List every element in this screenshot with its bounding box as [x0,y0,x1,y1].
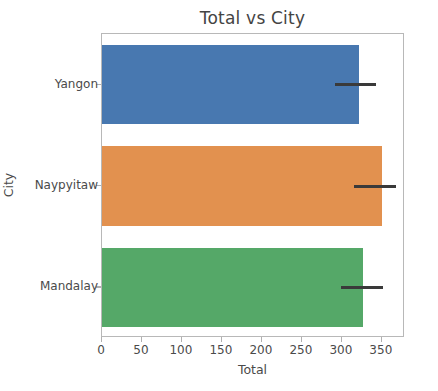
bar-mandalay [102,248,363,327]
x-tick-label: 100 [169,343,192,357]
plot-area [101,33,404,337]
x-tick-mark [181,337,182,342]
x-tick-mark [141,337,142,342]
x-tick-mark [101,337,102,342]
x-tick-label: 50 [133,343,148,357]
x-tick-mark [301,337,302,342]
x-tick-label: 250 [289,343,312,357]
y-axis-label: City [1,173,16,198]
chart-figure: Total vs City Total City YangonNaypyitaw… [0,0,438,391]
x-tick-label: 0 [97,343,105,357]
x-tick-label: 150 [209,343,232,357]
x-tick-mark [341,337,342,342]
x-tick-mark [261,337,262,342]
x-tick-label: 300 [329,343,352,357]
error-bar-naypyitaw [354,185,396,188]
chart-title: Total vs City [101,8,404,28]
error-bar-yangon [335,83,377,86]
bar-yangon [102,45,359,124]
y-tick-label-mandalay: Mandalay [40,279,98,293]
x-tick-mark [221,337,222,342]
error-bar-mandalay [341,286,383,289]
x-tick-mark [381,337,382,342]
x-tick-label: 200 [249,343,272,357]
x-tick-label: 350 [369,343,392,357]
x-axis-label: Total [101,362,404,377]
y-tick-label-yangon: Yangon [55,77,98,91]
bar-naypyitaw [102,146,382,225]
y-tick-label-naypyitaw: Naypyitaw [35,178,98,192]
